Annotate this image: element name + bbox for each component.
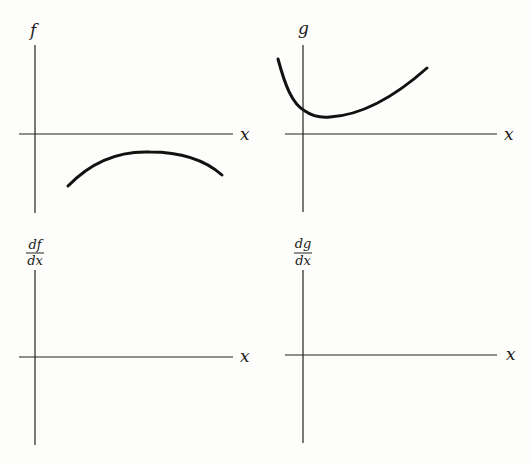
panel-dg-dx: dg dx x bbox=[285, 236, 516, 443]
panel-g: g x bbox=[278, 18, 514, 212]
diagram-canvas: f x g x df dx x dg dx x bbox=[0, 0, 530, 463]
f-curve bbox=[68, 152, 222, 186]
df-label-denominator: dx bbox=[27, 253, 43, 268]
g-y-label: g bbox=[298, 18, 309, 38]
dg-x-label: x bbox=[506, 344, 516, 364]
df-x-label: x bbox=[240, 346, 250, 366]
panel-f: f x bbox=[19, 20, 250, 213]
g-x-label: x bbox=[504, 124, 514, 144]
panel-df-dx: df dx x bbox=[19, 237, 250, 445]
df-label-numerator: df bbox=[28, 237, 43, 252]
g-curve bbox=[278, 59, 427, 117]
f-y-label: f bbox=[28, 20, 39, 40]
dg-label-denominator: dx bbox=[295, 253, 311, 268]
dg-label-numerator: dg bbox=[295, 236, 312, 251]
f-x-label: x bbox=[240, 124, 250, 144]
